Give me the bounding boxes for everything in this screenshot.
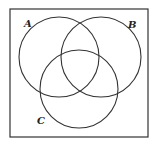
set-a-circle <box>19 17 99 97</box>
set-c-circle <box>40 50 118 128</box>
venn-diagram: A B C <box>0 0 157 145</box>
set-a-label: A <box>23 18 32 29</box>
set-c-label: C <box>37 115 45 126</box>
set-b-label: B <box>127 19 136 30</box>
